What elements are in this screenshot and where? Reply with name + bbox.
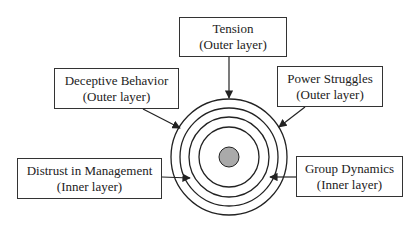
box-group-dynamics: Group Dynamics (Inner layer): [296, 156, 403, 197]
box-distrust-in-management: Distrust in Management (Inner layer): [17, 158, 162, 199]
arrow-power-struggles: [279, 107, 305, 127]
box-power-struggles: Power Struggles (Outer layer): [277, 66, 383, 107]
box-title: Tension: [213, 21, 254, 37]
arrow-deceptive-behavior: [143, 109, 180, 128]
box-layer: (Outer layer): [296, 87, 364, 103]
core-dot: [219, 147, 239, 167]
box-layer: (Inner layer): [317, 177, 382, 193]
box-title: Power Struggles: [287, 71, 373, 87]
box-deceptive-behavior: Deceptive Behavior (Outer layer): [54, 68, 179, 109]
box-title: Deceptive Behavior: [65, 73, 169, 89]
box-layer: (Outer layer): [83, 89, 151, 105]
arrow-distrust-in-management: [162, 177, 190, 178]
box-title: Distrust in Management: [27, 163, 153, 179]
box-title: Group Dynamics: [305, 161, 394, 177]
box-layer: (Inner layer): [57, 179, 122, 195]
box-layer: (Outer layer): [199, 37, 267, 53]
box-tension: Tension (Outer layer): [179, 17, 287, 57]
